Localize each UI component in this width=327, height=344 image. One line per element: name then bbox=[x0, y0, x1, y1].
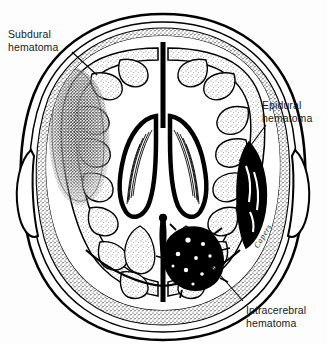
label-subdural-hematoma: Subdural hematoma bbox=[8, 28, 58, 53]
midline-foramen bbox=[159, 214, 167, 222]
label-epidural-hematoma: Epidural hematoma bbox=[262, 99, 312, 124]
label-intracerebral-hematoma: Intracerebral hematoma bbox=[246, 304, 306, 329]
